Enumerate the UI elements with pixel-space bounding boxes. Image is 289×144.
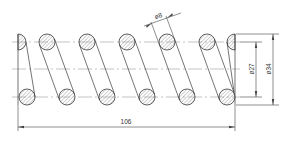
wire-line xyxy=(160,45,180,100)
arrow-up-icon xyxy=(272,34,274,40)
wire-section xyxy=(199,34,215,50)
wire-line xyxy=(40,45,60,100)
wire-section xyxy=(59,89,75,105)
extension-line xyxy=(151,22,160,45)
outer-diameter-dimension xyxy=(236,34,279,105)
wire-section xyxy=(179,89,195,105)
inner-diameter-label: ø27 xyxy=(248,63,255,75)
wire-line xyxy=(95,39,115,94)
length-label: 106 xyxy=(121,118,132,125)
dimension-line xyxy=(144,13,181,26)
arrow-icon xyxy=(167,13,173,18)
arrow-left-icon xyxy=(18,126,24,128)
wire-section xyxy=(139,89,155,105)
left-half-wire-section xyxy=(18,34,26,50)
wire-section xyxy=(99,89,115,105)
wire-section xyxy=(119,34,135,50)
wire-line xyxy=(120,45,140,100)
wire-section xyxy=(159,34,175,50)
wire-section xyxy=(19,89,35,105)
arrow-right-icon xyxy=(229,126,235,128)
wire-line xyxy=(175,39,195,94)
wire-line xyxy=(135,39,155,94)
right-half-wire-section xyxy=(227,34,235,50)
outer-diameter-label: ø34 xyxy=(265,63,272,75)
arrow-icon xyxy=(146,23,152,28)
spring-drawing: 106 ø8 ø27 ø34 xyxy=(0,0,289,144)
wire-section xyxy=(39,34,55,50)
wire-section xyxy=(219,89,235,105)
wire-line xyxy=(200,45,220,100)
top-coil-sections xyxy=(18,34,235,50)
arrow-down-icon xyxy=(272,99,274,105)
wire-line xyxy=(80,45,100,100)
arrow-up-icon xyxy=(255,42,257,48)
wire-line xyxy=(55,39,75,94)
arrow-down-icon xyxy=(255,91,257,97)
wire-section xyxy=(79,34,95,50)
wire-diameter-label: ø8 xyxy=(153,11,163,20)
